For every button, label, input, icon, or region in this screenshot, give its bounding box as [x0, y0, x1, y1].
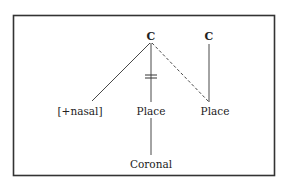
node-place-2: Place: [201, 105, 230, 117]
node-place-1: Place: [137, 105, 166, 117]
node-c1: C: [147, 30, 156, 43]
node-nasal: [+nasal]: [57, 105, 102, 117]
diagram-frame: [14, 16, 275, 176]
diagram-canvas: C C [+nasal] Place Place Coronal: [0, 0, 281, 183]
node-c2: C: [205, 30, 214, 43]
node-coronal: Coronal: [130, 158, 173, 170]
phonology-tree: C C [+nasal] Place Place Coronal: [0, 0, 281, 183]
